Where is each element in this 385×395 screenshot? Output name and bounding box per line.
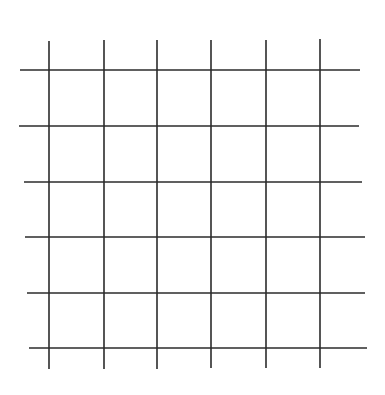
grid-lines bbox=[0, 0, 385, 395]
grid-diagram bbox=[0, 0, 385, 395]
vertical-lines bbox=[49, 39, 320, 369]
horizontal-lines bbox=[19, 70, 367, 348]
